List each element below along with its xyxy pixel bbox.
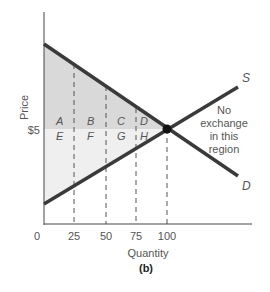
supply-demand-chart: S D A B C D E F G H $5 Price 0 25 50 75 … <box>0 0 270 292</box>
equilibrium-point <box>163 125 172 134</box>
svg-text:in this: in this <box>210 130 239 142</box>
region-c: C <box>117 115 125 127</box>
region-b: B <box>87 115 94 127</box>
svg-text:exchange: exchange <box>200 117 248 129</box>
x-tick-25: 25 <box>68 230 80 242</box>
caption: (b) <box>139 262 153 274</box>
region-g: G <box>117 130 126 142</box>
region-h: H <box>140 130 148 142</box>
region-e: E <box>56 130 64 142</box>
x-ticks: 0 25 50 75 100 <box>34 230 176 242</box>
demand-label: D <box>242 179 251 193</box>
region-d: D <box>140 115 148 127</box>
region-a: A <box>55 115 63 127</box>
supply-label: S <box>242 71 250 85</box>
x-axis-label: Quantity <box>128 247 169 259</box>
svg-text:No: No <box>217 104 231 116</box>
no-exchange-note: No exchange in this region <box>200 104 248 155</box>
x-tick-50: 50 <box>100 230 112 242</box>
x-tick-100: 100 <box>158 230 176 242</box>
x-tick-0: 0 <box>34 230 40 242</box>
svg-text:region: region <box>209 143 240 155</box>
x-tick-75: 75 <box>130 230 142 242</box>
y-axis-label: Price <box>18 95 30 120</box>
y-tick-5: $5 <box>28 124 40 136</box>
